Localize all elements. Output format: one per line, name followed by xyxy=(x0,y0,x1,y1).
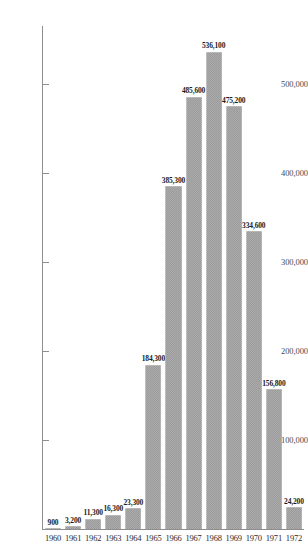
bar-group: 334,600 xyxy=(246,26,262,529)
bar[interactable] xyxy=(105,515,121,530)
bar-group: 900 xyxy=(45,26,61,529)
bar[interactable] xyxy=(206,52,222,529)
bar-group: 23,300 xyxy=(125,26,141,529)
bar-value-label: 385,300 xyxy=(162,177,185,185)
bar[interactable] xyxy=(226,106,242,529)
bar[interactable] xyxy=(286,507,302,529)
x-axis-label: 1960 xyxy=(43,534,63,543)
bar[interactable] xyxy=(45,528,61,529)
x-axis-label: 1972 xyxy=(284,534,304,543)
bar-group: 156,800 xyxy=(266,26,282,529)
x-axis-label: 1968 xyxy=(204,534,224,543)
x-axis-label: 1961 xyxy=(63,534,83,543)
bar[interactable] xyxy=(186,97,202,529)
bar-group: 485,600 xyxy=(186,26,202,529)
bar[interactable] xyxy=(65,526,81,529)
bar-value-label: 24,200 xyxy=(284,498,304,506)
bar-value-label: 334,600 xyxy=(242,222,265,230)
bar-value-label: 900 xyxy=(48,519,59,527)
bar-value-label: 184,300 xyxy=(142,355,165,363)
bar-value-label: 16,300 xyxy=(103,505,123,513)
bar-value-label: 156,800 xyxy=(262,380,285,388)
x-axis-label: 1970 xyxy=(244,534,264,543)
bar-value-label: 485,600 xyxy=(182,87,205,95)
bar[interactable] xyxy=(165,186,181,529)
bar[interactable] xyxy=(246,231,262,529)
bar[interactable] xyxy=(145,365,161,529)
bar-group: 16,300 xyxy=(105,26,121,529)
bar-group: 3,200 xyxy=(65,26,81,529)
x-axis-label: 1969 xyxy=(224,534,244,543)
bar-value-label: 3,200 xyxy=(65,517,81,525)
x-axis-label: 1962 xyxy=(83,534,103,543)
bar-group: 184,300 xyxy=(145,26,161,529)
bar[interactable] xyxy=(85,519,101,529)
x-axis-label: 1965 xyxy=(143,534,163,543)
bar-group: 24,200 xyxy=(286,26,302,529)
bar-value-label: 11,300 xyxy=(84,509,103,517)
bar-chart: 100,000200,000300,000400,000500,000 9003… xyxy=(0,0,308,548)
x-axis-label: 1966 xyxy=(163,534,183,543)
bar-group: 385,300 xyxy=(165,26,181,529)
x-axis-line xyxy=(42,529,304,530)
bar-group: 11,300 xyxy=(85,26,101,529)
plot-area: 9003,20011,30016,30023,300184,300385,300… xyxy=(43,26,304,529)
x-axis-label: 1964 xyxy=(123,534,143,543)
x-axis-label: 1963 xyxy=(103,534,123,543)
bar[interactable] xyxy=(125,508,141,529)
bar-group: 536,100 xyxy=(206,26,222,529)
bar-group: 475,200 xyxy=(226,26,242,529)
bar-value-label: 23,300 xyxy=(123,499,143,507)
bar[interactable] xyxy=(266,389,282,529)
bar-value-label: 475,200 xyxy=(222,97,245,105)
x-axis-label: 1967 xyxy=(184,534,204,543)
bar-value-label: 536,100 xyxy=(202,42,225,50)
x-axis-label: 1971 xyxy=(264,534,284,543)
